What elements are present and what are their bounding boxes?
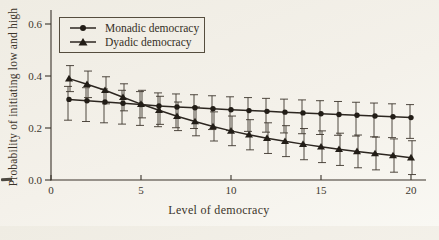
data-point-circle	[300, 110, 305, 115]
data-point-circle	[210, 106, 215, 111]
triangle-marker-icon	[68, 36, 98, 48]
y-tick-label: 0.0	[28, 174, 42, 186]
data-point-circle	[354, 113, 359, 118]
data-point-circle	[390, 114, 395, 119]
data-point-circle	[192, 105, 197, 110]
data-point-circle	[318, 111, 323, 116]
data-point-triangle	[65, 75, 73, 82]
y-axis-label: Probability of initiating low and high	[7, 8, 19, 187]
legend-item-dyadic: Dyadic democracy	[68, 35, 198, 49]
legend-label-monadic: Monadic democracy	[105, 22, 199, 34]
x-tick-label: 5	[138, 184, 144, 196]
y-tick-label: 0.4	[28, 70, 42, 82]
legend-item-monadic: Monadic democracy	[68, 21, 198, 35]
legend: Monadic democracy Dyadic democracy	[59, 17, 205, 53]
data-point-circle	[282, 109, 287, 114]
data-point-circle	[246, 108, 251, 113]
x-tick-label: 0	[48, 184, 54, 196]
x-tick-label: 20	[406, 184, 418, 196]
x-tick-label: 15	[316, 184, 328, 196]
y-tick-label: 0.6	[28, 18, 42, 30]
scan-artifact	[1, 178, 12, 181]
data-point-circle	[84, 98, 89, 103]
circle-marker-icon	[68, 22, 98, 34]
x-axis-label: Level of democracy	[168, 203, 269, 218]
x-tick-label: 10	[226, 184, 238, 196]
data-point-circle	[228, 107, 233, 112]
data-point-circle	[66, 97, 71, 102]
scanned-figure-page: 051015200.00.20.40.6 Probability of init…	[0, 0, 439, 226]
data-point-circle	[120, 101, 125, 106]
data-point-circle	[336, 112, 341, 117]
data-point-circle	[264, 109, 269, 114]
legend-label-dyadic: Dyadic democracy	[105, 36, 192, 48]
data-point-circle	[408, 115, 413, 120]
data-point-circle	[174, 104, 179, 109]
data-point-circle	[102, 99, 107, 104]
data-point-circle	[372, 113, 377, 118]
y-tick-label: 0.2	[28, 122, 42, 134]
